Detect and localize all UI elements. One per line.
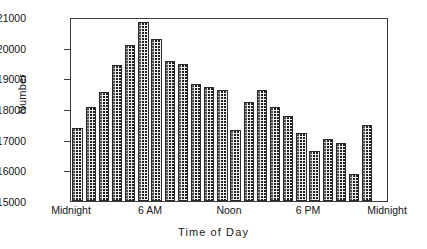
bar [270,107,280,201]
bar [309,151,319,201]
bar-series [71,19,387,201]
bar [112,65,122,202]
bar [86,107,96,201]
x-axis-tick-label: Midnight [367,204,407,216]
x-axis-tick-label: Noon [216,204,241,216]
bar [323,139,333,201]
y-axis-tick-label: 21000 [0,12,26,24]
bar [362,125,372,201]
bar [99,92,109,201]
y-axis-tick-label: 17000 [0,135,26,147]
bar [125,45,135,201]
chart-figure: Number 150001600017000180001900020000210… [0,0,427,249]
x-axis-tick-label: 6 AM [138,204,162,216]
bar [204,87,214,201]
y-axis-tick-label: 19000 [0,73,26,85]
bar [72,128,82,201]
bar [244,102,254,201]
x-axis-tick-label: 6 PM [296,204,321,216]
bar [217,90,227,201]
bar [138,22,148,201]
y-axis-tick-label: 18000 [0,104,26,116]
y-axis-tick-label: 16000 [0,165,26,177]
bar [283,116,293,201]
bar [336,143,346,201]
bar [151,39,161,201]
bar [257,90,267,201]
bar [191,84,201,201]
bar [230,130,240,201]
bar [296,133,306,201]
bar [165,61,175,201]
x-axis-tick-label: Midnight [51,204,91,216]
bar [349,174,359,201]
y-axis-tick-label: 15000 [0,196,26,208]
x-axis-title: Time of Day [0,226,427,238]
bar [178,64,188,201]
y-axis-tick-label: 20000 [0,43,26,55]
